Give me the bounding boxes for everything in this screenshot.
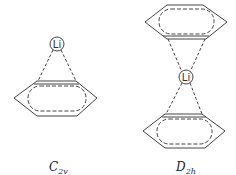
bond-dashed xyxy=(190,39,205,72)
ring-pi-cloud-top xyxy=(159,9,214,34)
li-atom: Li xyxy=(50,37,64,51)
d2h-label: D2h xyxy=(175,160,196,175)
bond-dashed xyxy=(38,50,53,81)
bond-dashed xyxy=(166,83,182,114)
lithium-benzene-diagram: Li C2v Li D2h xyxy=(0,0,236,175)
ring-pi-cloud xyxy=(28,86,86,111)
svg-text:Li: Li xyxy=(182,72,190,83)
c2v-label: C2v xyxy=(49,160,68,175)
bond-dashed xyxy=(190,83,202,114)
li-atom: Li xyxy=(179,70,193,84)
d2h-structure: Li xyxy=(143,5,227,148)
bond-dashed xyxy=(61,50,76,81)
c2v-structure: Li xyxy=(14,37,97,116)
ring-pi-cloud-bottom xyxy=(157,119,212,144)
svg-text:Li: Li xyxy=(53,39,61,50)
bond-dashed xyxy=(168,39,182,72)
